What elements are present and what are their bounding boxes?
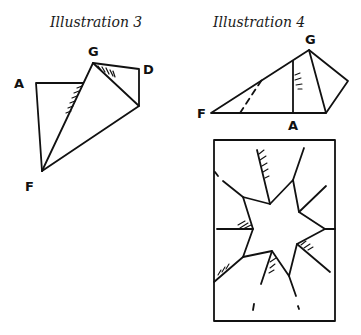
label-a-3: A <box>14 76 24 91</box>
star-frame-figure <box>214 140 335 321</box>
illustration-4-figure <box>211 50 348 113</box>
illustration-3-figure <box>36 63 139 171</box>
label-f-4: F <box>197 106 206 121</box>
label-f-3: F <box>25 179 34 194</box>
label-d-3: D <box>143 62 154 77</box>
label-g-4: G <box>305 32 316 47</box>
diagram-canvas: A G D F G F A <box>0 0 361 335</box>
label-a-4: A <box>288 118 298 133</box>
label-g-3: G <box>88 44 99 59</box>
